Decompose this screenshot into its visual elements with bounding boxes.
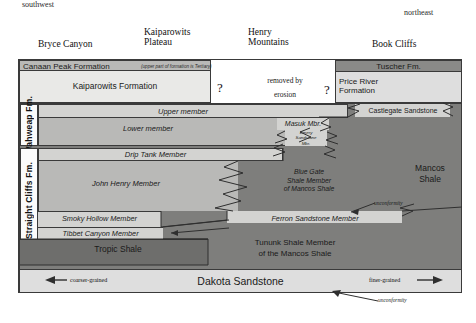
label-line: Blue Gate: [254, 168, 364, 177]
label-unconformity-bottom: unconformity: [378, 297, 407, 303]
label-drip-tank-member: Drip Tank Member: [38, 150, 273, 159]
label-blue-gate-shale-member: Blue Gate Shale Member of Mancos Shale: [254, 168, 364, 194]
label-ferron-sandstone-member: Ferron Sandstone Member: [225, 214, 405, 223]
label-emery-sandstone-member: Emery Sandstone Mbr.: [285, 130, 327, 146]
direction-label-southwest: southwest: [22, 0, 54, 9]
locality-line: Plateau: [144, 38, 190, 48]
label-line: Shale Member: [254, 177, 364, 186]
formation-tab-label: Straight Cliffs Fm.: [24, 162, 34, 239]
question-mark-right: ?: [324, 82, 330, 98]
locality-kaiparowits-plateau: Kaiparowits Plateau: [144, 28, 190, 47]
label-unconformity-mid: unconformity: [374, 200, 403, 206]
pointer-unconformity-bottom: [330, 286, 390, 306]
formation-tab-label: Wahweap Fm.: [24, 96, 34, 155]
stratigraphic-cross-section: Canaan Peak Formation (upper part of for…: [18, 59, 462, 293]
label-tununk-shale-member: Tununk Shale Member of the Mancos Shale: [215, 237, 375, 259]
label-finer-grained: finer-grained: [369, 277, 400, 283]
label-castlegate-sandstone: Castlegate Sandstone: [349, 107, 457, 114]
label-erosion: erosion: [235, 90, 335, 99]
label-line: Formation: [339, 86, 459, 95]
label-line: Mbr.: [285, 141, 327, 146]
label-kaiparowits-formation: Kaiparowits Formation: [19, 81, 211, 91]
label-upper-member: Upper member: [38, 107, 328, 116]
label-coarser-grained: coarser-grained: [70, 277, 107, 283]
label-mancos-shale: Mancos Shale: [397, 163, 463, 185]
locality-book-cliffs: Book Cliffs: [372, 40, 416, 50]
label-tropic-shale: Tropic Shale: [38, 244, 198, 254]
label-lower-member: Lower member: [38, 124, 258, 133]
label-removed-by: removed by: [235, 76, 335, 85]
label-canaan-peak-note: (upper part of formation is Tertiary): [141, 64, 212, 69]
label-tibbet-canyon-member: Tibbet Canyon Member: [38, 229, 163, 238]
label-line: Price River: [339, 77, 459, 86]
label-line: of the Mancos Shale: [215, 248, 375, 259]
label-line: Mancos: [397, 163, 463, 174]
label-masuk-member: Masuk Mbr.: [273, 120, 333, 127]
direction-label-northeast: northeast: [404, 8, 433, 17]
label-line: Shale: [397, 174, 463, 185]
formation-tab-straight-cliffs: Straight Cliffs Fm.: [20, 148, 38, 253]
locality-bryce-canyon: Bryce Canyon: [38, 40, 93, 50]
label-line: of Mancos Shale: [254, 185, 364, 194]
label-john-henry-member: John Henry Member: [41, 179, 211, 188]
formation-tab-wahweap: Wahweap Fm.: [20, 104, 38, 146]
locality-line: Mountains: [248, 38, 289, 48]
label-smoky-hollow-member: Smoky Hollow Member: [38, 214, 161, 223]
locality-line: Bryce Canyon: [38, 40, 93, 50]
label-price-river-formation: Price River Formation: [339, 77, 459, 95]
locality-line: Book Cliffs: [372, 40, 416, 50]
question-mark-left: ?: [217, 80, 223, 96]
label-tuscher-formation: Tuscher Fm.: [335, 62, 462, 71]
locality-henry-mountains: Henry Mountains: [248, 28, 289, 47]
label-line: Tununk Shale Member: [215, 237, 375, 248]
